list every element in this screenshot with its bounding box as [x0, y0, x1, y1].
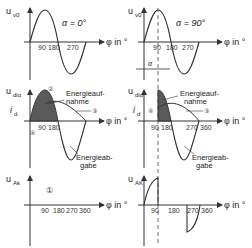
- panel-bottom-left: u Ak 90 180 270 360 φ in ° ①: [6, 174, 128, 246]
- y-label-sub: diα: [135, 92, 144, 98]
- current-sub: d: [14, 111, 17, 117]
- y-label-u: u: [128, 6, 133, 16]
- energy-in-line2: nahme: [184, 97, 207, 106]
- x-axis-label: φ in °: [106, 37, 128, 47]
- alpha-annotation: α = 90°: [176, 18, 205, 28]
- x-axis-label: φ in °: [106, 200, 128, 210]
- tick-180: 180: [166, 44, 178, 51]
- panel-top-right: u v0 α = 90° 90 180 270 φ in ° α: [128, 6, 246, 80]
- x-axis-label: φ in °: [224, 37, 246, 47]
- tick-270: 270: [67, 44, 79, 51]
- marker-2: ②: [48, 86, 53, 92]
- current-label: i: [133, 105, 136, 115]
- y-label-sub: v0: [135, 12, 142, 18]
- forward-voltage-segment: [144, 178, 158, 205]
- x-axis-label: φ in °: [224, 116, 246, 126]
- current-label: i: [10, 105, 13, 115]
- panel-mid-right: u diα i d 90 180 270 360 φ in ° Energiea…: [128, 86, 246, 170]
- tick-270: 270: [187, 207, 199, 214]
- tick-90: 90: [151, 207, 159, 214]
- y-label-u: u: [128, 86, 133, 96]
- tick-360: 360: [201, 207, 213, 214]
- y-label-sub: diα: [13, 92, 22, 98]
- tick-90: 90: [38, 124, 46, 131]
- tick-270: 270: [186, 124, 198, 131]
- tick-90: 90: [153, 44, 161, 51]
- tick-360: 360: [79, 207, 91, 214]
- tick-180: 180: [48, 44, 60, 51]
- tick-270: 270: [182, 44, 194, 51]
- panel-bottom-right: u AK 90 180 270 360 φ in °: [128, 174, 246, 246]
- y-label-u: u: [128, 174, 133, 184]
- alpha-annotation: α = 0°: [62, 18, 86, 28]
- energy-in-line2: nahme: [66, 97, 89, 106]
- marker-4: ④: [148, 108, 153, 114]
- energy-absorption-area: [158, 90, 171, 121]
- panel-top-left: u v0 α = 0° 90 180 270 φ in °: [6, 6, 128, 80]
- x-axis-label: φ in °: [106, 116, 128, 126]
- panel-mid-left: u diα i d 90 180 φ in ° Energieauf- nahm…: [6, 86, 128, 170]
- y-label-u: u: [6, 6, 11, 16]
- marker-3: ③: [204, 108, 209, 114]
- energy-absorption-area: [30, 90, 58, 121]
- y-label-u: u: [6, 174, 11, 184]
- y-label-sub: AK: [135, 180, 143, 186]
- alpha-marker: α: [148, 60, 153, 67]
- tick-90: 90: [41, 207, 49, 214]
- energy-out-line2: gabe: [196, 161, 213, 170]
- marker-3: ③: [92, 108, 97, 114]
- tick-180: 180: [53, 207, 65, 214]
- marker-4: ④: [30, 130, 35, 136]
- tick-90: 90: [151, 124, 159, 131]
- energy-out-pointer: [70, 146, 78, 154]
- y-label-u: u: [6, 86, 11, 96]
- y-label-sub: Ak: [13, 180, 21, 186]
- tick-180: 180: [161, 124, 173, 131]
- x-axis-label: φ in °: [224, 200, 246, 210]
- tick-90: 90: [38, 44, 46, 51]
- y-label-sub: v0: [13, 12, 20, 18]
- tick-180: 180: [48, 124, 60, 131]
- tick-360: 360: [200, 124, 212, 131]
- tick-270: 270: [66, 207, 78, 214]
- tick-180: 180: [168, 207, 180, 214]
- current-sub: d: [137, 111, 140, 117]
- marker-1: ①: [46, 186, 53, 195]
- energy-out-line2: gabe: [80, 161, 97, 170]
